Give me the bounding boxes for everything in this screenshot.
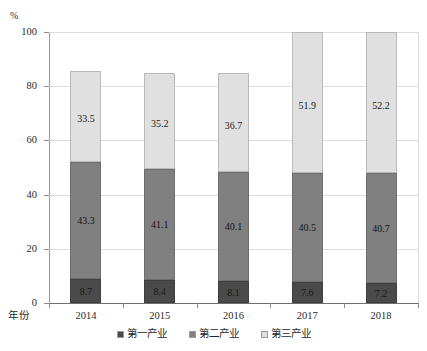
bar-segment[interactable]: 43.3	[70, 162, 101, 279]
legend-label: 第三产业	[271, 328, 311, 340]
bar-segment[interactable]: 8.7	[70, 279, 101, 303]
bar-segment[interactable]: 36.7	[218, 73, 249, 172]
bar-segment[interactable]: 35.2	[144, 73, 175, 168]
legend-item[interactable]: 第二产业	[189, 328, 239, 340]
y-tick-label: 100	[0, 26, 37, 37]
legend-item[interactable]: 第一产业	[117, 328, 167, 340]
x-tick-mark	[270, 303, 271, 308]
bar-segment[interactable]: 33.5	[70, 71, 101, 162]
bar-segment[interactable]: 41.1	[144, 169, 175, 280]
chart-canvas: % 020406080100 8.743.333.58.441.135.28.1…	[0, 0, 427, 351]
y-tick-label: 20	[0, 243, 37, 254]
bar-value-label: 43.3	[77, 215, 95, 226]
x-axis-title: 年份	[8, 310, 30, 322]
legend-swatch-icon	[117, 331, 124, 338]
x-tick-mark	[123, 303, 124, 308]
bar-value-label: 40.5	[299, 222, 317, 233]
bar-segment[interactable]: 40.7	[366, 173, 397, 283]
legend-swatch-icon	[261, 331, 268, 338]
bar-segment[interactable]: 40.5	[292, 173, 323, 283]
bar-value-label: 40.7	[372, 223, 390, 234]
bar-value-label: 8.4	[153, 286, 166, 297]
x-tick-label: 2017	[277, 310, 337, 322]
y-axis-unit-label: %	[10, 10, 18, 21]
x-tick-mark	[418, 303, 419, 308]
bar-stack[interactable]: 7.640.551.9	[292, 32, 323, 303]
bar-value-label: 7.6	[301, 287, 314, 298]
plot-border-left	[49, 32, 50, 304]
bar-value-label: 8.7	[80, 286, 93, 297]
bar-stack[interactable]: 8.743.333.5	[70, 32, 101, 303]
y-tick-label: 60	[0, 134, 37, 145]
bar-value-label: 52.2	[372, 100, 390, 111]
bar-value-label: 35.2	[151, 118, 169, 129]
y-tick-label: 40	[0, 189, 37, 200]
bar-segment[interactable]: 8.1	[218, 281, 249, 303]
x-tick-label: 2014	[56, 310, 116, 322]
bar-value-label: 8.1	[227, 287, 240, 298]
bar-stack[interactable]: 8.441.135.2	[144, 32, 175, 303]
y-tick-mark	[44, 86, 49, 87]
y-tick-mark	[44, 195, 49, 196]
x-tick-mark	[344, 303, 345, 308]
bar-segment[interactable]: 7.2	[366, 283, 397, 303]
legend-item[interactable]: 第三产业	[261, 328, 311, 340]
x-tick-label: 2018	[351, 310, 411, 322]
plot-border-right	[418, 32, 419, 304]
chart-legend: 第一产业第二产业第三产业	[0, 328, 427, 340]
bar-segment[interactable]: 8.4	[144, 280, 175, 303]
y-tick-mark	[44, 249, 49, 250]
y-tick-mark	[44, 140, 49, 141]
legend-label: 第一产业	[127, 328, 167, 340]
legend-label: 第二产业	[199, 328, 239, 340]
y-tick-mark	[44, 32, 49, 33]
bar-segment[interactable]: 51.9	[292, 32, 323, 173]
bar-stack[interactable]: 8.140.136.7	[218, 32, 249, 303]
bar-value-label: 41.1	[151, 219, 169, 230]
x-tick-mark	[49, 303, 50, 308]
x-tick-mark	[197, 303, 198, 308]
y-tick-label: 0	[0, 297, 37, 308]
legend-swatch-icon	[189, 331, 196, 338]
bar-stack[interactable]: 7.240.752.2	[366, 32, 397, 303]
bar-value-label: 7.2	[375, 288, 388, 299]
bar-value-label: 51.9	[299, 100, 317, 111]
bar-value-label: 36.7	[225, 120, 243, 131]
x-tick-label: 2016	[204, 310, 264, 322]
y-tick-label: 80	[0, 80, 37, 91]
x-axis-line	[49, 303, 419, 304]
bar-value-label: 33.5	[77, 113, 95, 124]
bar-value-label: 40.1	[225, 221, 243, 232]
bar-segment[interactable]: 40.1	[218, 172, 249, 281]
bar-segment[interactable]: 52.2	[366, 32, 397, 173]
x-tick-label: 2015	[130, 310, 190, 322]
bar-segment[interactable]: 7.6	[292, 282, 323, 303]
